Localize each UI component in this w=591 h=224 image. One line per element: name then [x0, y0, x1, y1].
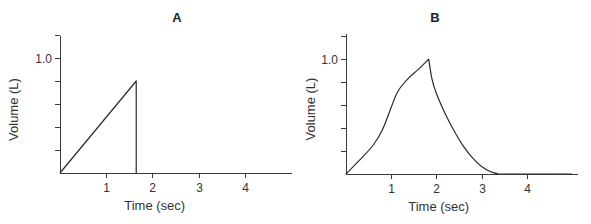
chart-a-panel: A1.01234Time (sec)Volume (L)	[0, 0, 295, 224]
y-axis-label: Volume (L)	[6, 78, 21, 141]
x-tick-label: 2	[433, 182, 440, 196]
y-tick-label: 1.0	[321, 53, 338, 67]
x-tick-label: 3	[196, 181, 203, 195]
y-axis-label: Volume (L)	[303, 78, 318, 141]
chart-b: B1.01234Time (sec)Volume (L)	[295, 0, 591, 224]
x-axis-label: Time (sec)	[124, 198, 185, 213]
chart-title: A	[172, 10, 182, 25]
chart-a: A1.01234Time (sec)Volume (L)	[0, 0, 295, 224]
x-tick-label: 4	[242, 181, 249, 195]
chart-b-panel: B1.01234Time (sec)Volume (L)	[295, 0, 591, 224]
x-tick-label: 4	[524, 182, 531, 196]
chart-title: B	[430, 10, 439, 25]
x-tick-label: 2	[149, 181, 156, 195]
volume-curve	[346, 59, 572, 174]
x-axis-label: Time (sec)	[408, 199, 469, 214]
volume-curve	[60, 81, 136, 173]
x-tick-label: 1	[103, 181, 110, 195]
x-tick-label: 3	[479, 182, 486, 196]
y-tick-label: 1.0	[35, 52, 52, 66]
x-tick-label: 1	[388, 182, 395, 196]
